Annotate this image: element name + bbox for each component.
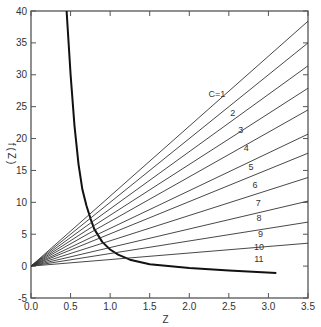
y-tick-label: 40	[16, 6, 28, 17]
c-line-5	[31, 110, 308, 266]
x-tick-label: 3.0	[261, 301, 275, 312]
c-line-4	[31, 88, 308, 266]
c-label: 11	[254, 254, 263, 264]
chart: 0.00.51.01.52.02.53.03.5-505101520253035…	[0, 0, 321, 327]
y-axis-label: f(Z)	[6, 143, 17, 167]
c-line-8	[31, 178, 308, 267]
c-label: 3	[238, 125, 243, 135]
c-label: 4	[244, 143, 249, 153]
y-tick-label: 5	[21, 229, 27, 240]
c-label: 6	[252, 180, 257, 190]
c-label: 2	[230, 108, 235, 118]
y-tick-label: 30	[16, 69, 28, 80]
c-line-10	[31, 222, 308, 266]
c-line-2	[31, 43, 308, 266]
x-tick-label: 1.5	[143, 301, 157, 312]
y-tick-label: 35	[16, 37, 28, 48]
x-tick-label: 0.5	[64, 301, 78, 312]
x-tick-label: 3.5	[301, 301, 315, 312]
y-tick-label: 10	[16, 197, 28, 208]
c-label: 5	[249, 162, 254, 172]
c-label: C=1	[209, 89, 226, 99]
c-line-9	[31, 201, 308, 266]
x-tick-label: 2.0	[182, 301, 196, 312]
c-label: 10	[254, 242, 264, 252]
y-tick-label: -5	[18, 293, 27, 304]
x-axis-label: Z	[162, 314, 168, 325]
c-label: 8	[256, 213, 261, 223]
y-tick-label: 25	[16, 101, 28, 112]
c-line-C-1	[31, 21, 308, 266]
y-tick-label: 15	[16, 165, 28, 176]
y-tick-label: 0	[21, 261, 27, 272]
x-tick-label: 2.5	[222, 301, 236, 312]
c-line-7	[31, 153, 308, 266]
c-label: 7	[256, 198, 261, 208]
c-label: 9	[258, 229, 263, 239]
x-tick-label: 1.0	[103, 301, 117, 312]
